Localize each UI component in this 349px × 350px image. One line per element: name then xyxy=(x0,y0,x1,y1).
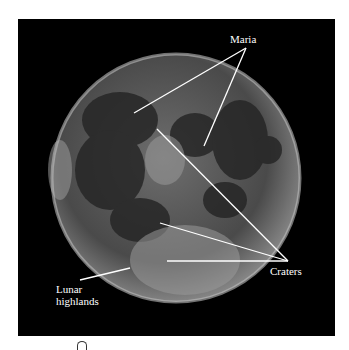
label-highlands-line2: highlands xyxy=(56,296,99,307)
cropped-glyph-fragment xyxy=(77,341,87,350)
label-maria: Maria xyxy=(230,34,256,45)
label-highlands-line1: Lunar xyxy=(56,284,82,295)
label-craters: Craters xyxy=(270,266,302,277)
